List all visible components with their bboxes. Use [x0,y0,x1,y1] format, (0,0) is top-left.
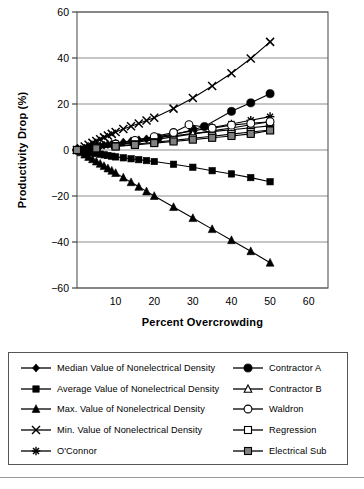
legend-item-right-1[interactable]: Contractor B [231,379,347,400]
legend-marker-open-circle [231,401,265,417]
legend-marker-asterisk [19,443,53,459]
legend-marker-open-triangle [231,381,265,397]
legend-key-glyph [244,406,252,414]
y-tick-label--60: −60 [51,282,69,294]
legend-item-label: O'Connor [53,446,97,456]
chart-plot-area: 6040200−20−40−60102030405060Percent Over… [0,0,364,340]
y-tick-label-0: 0 [63,144,69,156]
y-tick-label--40: −40 [51,236,69,248]
y-tick-label-60: 60 [57,6,69,18]
series-marker-3-13 [135,120,143,128]
series-marker-1-15 [151,158,157,164]
x-tick-label-40: 40 [226,295,238,307]
legend-item-left-3[interactable]: Min. Value of Nonelectrical Density [19,420,234,441]
series-marker-2-11 [119,173,127,181]
y-axis-title: Productivity Drop (%) [16,92,28,209]
series-marker-9-4 [151,140,158,147]
series-marker-1-11 [120,155,126,161]
series-marker-1-16 [170,161,176,167]
series-marker-1-12 [128,156,134,162]
series-marker-2-16 [170,203,178,211]
series-marker-3-12 [127,122,135,130]
legend-item-left-2[interactable]: Max. Value of Nonelectrical Density [19,399,234,420]
legend-swatch [231,360,265,376]
series-marker-9-9 [247,130,254,137]
x-axis-title: Percent Overcrowding [142,316,263,328]
series-marker-9-6 [189,136,196,143]
legend-item-label: Min. Value of Nonelectrical Density [53,425,202,435]
series-marker-9-5 [170,138,177,145]
footer-divider [0,477,364,478]
series-marker-9-1 [93,145,100,152]
series-marker-1-17 [190,164,196,170]
series-marker-2-14 [143,187,151,195]
legend-column-left: Median Value of Nonelectrical DensityAve… [19,358,234,461]
series-marker-3-11 [119,125,127,133]
legend-column-right: Contractor AContractor BWaldronRegressio… [231,358,347,461]
series-marker-3-15 [150,114,158,122]
series-marker-7-9 [247,119,255,127]
line-chart-svg: 6040200−20−40−60102030405060Percent Over… [0,0,364,340]
legend-item-label: Regression [265,425,316,435]
series-marker-1-14 [143,157,149,163]
series-marker-7-6 [185,121,193,129]
legend-item-label: Contractor B [265,384,322,394]
legend-swatch [19,401,53,417]
series-marker-3-17 [189,94,197,102]
legend-marker-gray-square [231,443,265,459]
series-marker-5-10 [266,90,274,98]
legend-swatch [231,401,265,417]
legend-key-glyph [33,364,40,372]
legend-item-left-4[interactable]: O'Connor [19,440,234,461]
chart-legend: Median Value of Nonelectrical DensityAve… [8,352,348,465]
series-marker-3-16 [170,105,178,113]
series-marker-3-19 [227,69,235,77]
legend-item-label: Median Value of Nonelectrical Density [53,363,215,373]
series-marker-5-8 [227,107,235,115]
series-marker-3-18 [208,82,216,90]
legend-swatch [19,422,53,438]
figure-container: 6040200−20−40−60102030405060Percent Over… [0,0,364,489]
legend-key-glyph [32,446,41,455]
x-tick-label-10: 10 [110,295,122,307]
x-tick-label-50: 50 [264,295,276,307]
y-tick-label-40: 40 [57,52,69,64]
legend-swatch [231,443,265,459]
legend-item-left-1[interactable]: Average Value of Nonelectrical Density [19,379,234,400]
legend-item-right-2[interactable]: Waldron [231,399,347,420]
y-tick-label-20: 20 [57,98,69,110]
legend-item-right-4[interactable]: Electrical Sub [231,440,347,461]
legend-marker-filled-triangle [19,401,53,417]
series-marker-1-20 [248,174,254,180]
series-marker-5-9 [247,99,255,107]
legend-marker-cross-x [19,422,53,438]
series-marker-3-20 [247,54,255,62]
series-marker-7-10 [266,118,274,126]
series-marker-2-21 [266,258,274,266]
series-marker-1-13 [136,156,142,162]
series-marker-2-17 [189,214,197,222]
legend-key-glyph [244,364,252,372]
legend-item-right-0[interactable]: Contractor A [231,358,347,379]
series-marker-3-14 [143,117,151,125]
series-marker-9-0 [74,147,81,154]
series-marker-7-5 [170,129,178,137]
series-marker-9-3 [131,141,138,148]
legend-item-left-0[interactable]: Median Value of Nonelectrical Density [19,358,234,379]
legend-item-right-3[interactable]: Regression [231,420,347,441]
series-marker-2-18 [208,225,216,233]
series-marker-1-21 [267,179,273,185]
y-tick-label--20: −20 [51,190,69,202]
series-marker-2-12 [127,178,135,186]
legend-swatch [231,381,265,397]
series-marker-2-19 [228,236,236,244]
series-marker-2-13 [135,183,143,191]
legend-key-glyph [33,386,39,392]
legend-key-glyph [245,447,252,454]
series-marker-7-8 [228,121,236,129]
legend-key-glyph [245,427,252,434]
x-tick-label-20: 20 [148,295,160,307]
series-marker-1-10 [112,154,118,160]
series-marker-3-21 [266,38,274,46]
legend-item-label: Average Value of Nonelectrical Density [53,384,219,394]
